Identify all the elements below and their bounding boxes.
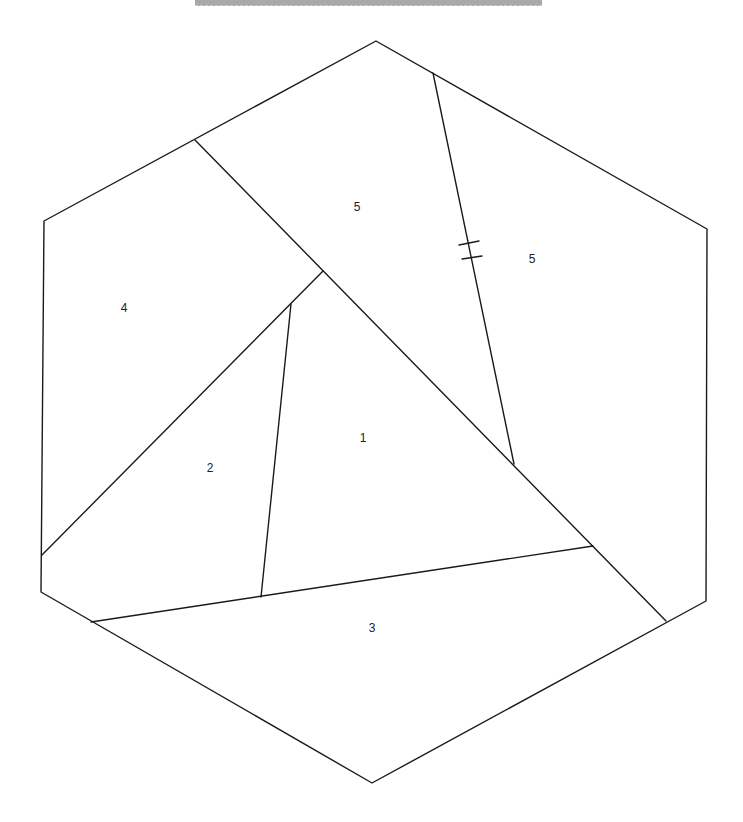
region-label-2: 2 — [207, 462, 214, 474]
region-label-1: 1 — [360, 432, 367, 444]
hexagon-outline — [41, 41, 707, 783]
cut-line-bottom-strip — [91, 546, 593, 622]
hexagon-diagram — [0, 0, 743, 822]
region-label-3: 3 — [369, 622, 376, 634]
cut-line-left-diagonal — [42, 271, 323, 555]
region-label-5-left: 5 — [354, 201, 361, 213]
cut-line-top-split — [433, 73, 514, 464]
region-label-4: 4 — [121, 302, 128, 314]
cut-line-inner-2-1 — [261, 304, 291, 597]
region-label-5-right: 5 — [529, 253, 536, 265]
